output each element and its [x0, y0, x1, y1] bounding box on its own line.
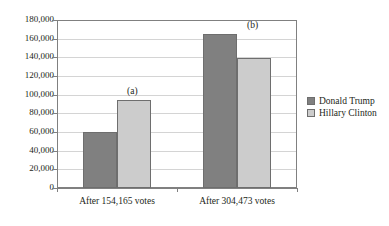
- legend-label: Donald Trump: [319, 96, 375, 106]
- y-axis-tick-mark: [52, 151, 57, 152]
- legend-item-hillary-clinton: Hillary Clinton: [307, 107, 377, 119]
- legend-item-donald-trump: Donald Trump: [307, 95, 377, 107]
- panel-annotation: (b): [247, 20, 258, 30]
- bars-layer: [58, 21, 296, 188]
- y-axis-tick-mark: [52, 132, 57, 133]
- y-axis-tick-mark: [52, 113, 57, 114]
- y-axis-tick-mark: [52, 57, 57, 58]
- bar: [203, 34, 237, 188]
- legend-label: Hillary Clinton: [319, 108, 377, 118]
- y-axis-tick-label: 40,000: [2, 146, 54, 155]
- x-axis-tick-mark: [297, 188, 298, 192]
- x-axis-tick-mark: [57, 188, 58, 192]
- y-axis-tick-label: 140,000: [2, 52, 54, 61]
- y-axis-tick-label: 100,000: [2, 90, 54, 99]
- y-axis-tick-label: 160,000: [2, 34, 54, 43]
- y-axis-tick-label: 80,000: [2, 108, 54, 117]
- y-axis-tick-label: 180,000: [2, 15, 54, 24]
- y-axis-tick-mark: [52, 169, 57, 170]
- y-axis-tick-mark: [52, 95, 57, 96]
- x-axis-tick-mark: [177, 188, 178, 192]
- legend-swatch-icon: [307, 109, 315, 117]
- y-axis-tick-label: 0: [2, 183, 54, 192]
- x-axis-category-label: After 154,165 votes: [57, 196, 177, 206]
- y-axis-tick-label: 60,000: [2, 127, 54, 136]
- y-axis-tick-label: 120,000: [2, 71, 54, 80]
- y-axis-tick-label: 20,000: [2, 164, 54, 173]
- y-axis-tick-mark: [52, 39, 57, 40]
- bar: [237, 58, 271, 188]
- legend-swatch-icon: [307, 97, 315, 105]
- panel-annotation: (a): [127, 86, 138, 96]
- y-axis-tick-mark: [52, 76, 57, 77]
- bar: [117, 100, 151, 188]
- bar: [83, 132, 117, 188]
- y-axis-tick-mark: [52, 20, 57, 21]
- x-axis-category-label: After 304,473 votes: [177, 196, 297, 206]
- chart-legend: Donald Trump Hillary Clinton: [307, 95, 377, 119]
- bar-chart: 020,00040,00060,00080,000100,000120,0001…: [0, 0, 389, 226]
